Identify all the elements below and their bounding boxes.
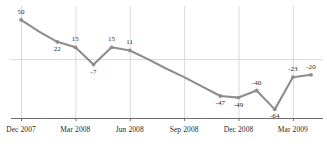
series-line <box>21 20 311 110</box>
point-label-may-2008: 15 <box>108 35 115 43</box>
x-tick-label-jun-2008: Jun 2008 <box>116 125 144 134</box>
data-point-marker <box>255 89 259 93</box>
x-tick-label-mar-2008: Mar 2008 <box>60 125 90 134</box>
point-label-apr-2009: -20 <box>306 63 316 71</box>
data-point-marker <box>55 40 59 44</box>
x-tick-label-dec-2007: Dec 2007 <box>6 125 36 134</box>
point-label-feb-2008: 22 <box>54 45 61 53</box>
point-label-mar-2009: -23 <box>288 65 298 73</box>
data-point-marker <box>237 96 241 100</box>
vertical-gridlines <box>22 6 294 118</box>
point-label-apr-2008: -7 <box>90 68 96 76</box>
point-label-feb-2009: -64 <box>270 112 280 120</box>
series-markers <box>19 18 313 111</box>
data-point-marker <box>291 75 295 79</box>
data-point-marker <box>19 18 23 22</box>
line-chart: 502215-71511-47-49-40-64-23-20 Dec 2007M… <box>0 0 327 153</box>
point-label-nov-2008: -47 <box>216 99 226 107</box>
data-point-marker <box>128 49 132 53</box>
x-tick-label-dec-2008: Dec 2008 <box>224 125 254 134</box>
data-point-marker <box>110 45 114 49</box>
data-point-marker <box>73 45 77 49</box>
point-label-jan-2009: -40 <box>252 79 262 87</box>
data-point-marker <box>218 94 222 98</box>
data-point-marker <box>309 73 313 77</box>
x-tick-label-mar-2009: Mar 2009 <box>278 125 308 134</box>
data-point-marker <box>273 107 277 111</box>
point-label-dec-2007: 50 <box>17 8 24 16</box>
data-point-marker <box>92 63 96 67</box>
x-tick-label-sep-2008: Sep 2008 <box>170 125 199 134</box>
point-label-mar-2008: 15 <box>72 35 79 43</box>
point-label-jun-2008: 11 <box>126 38 133 46</box>
point-label-dec-2008: -49 <box>234 101 244 109</box>
